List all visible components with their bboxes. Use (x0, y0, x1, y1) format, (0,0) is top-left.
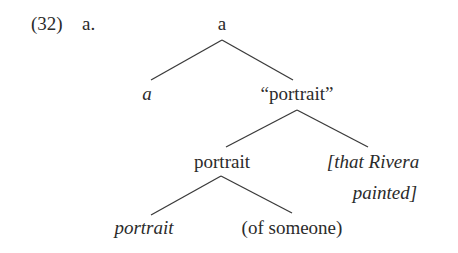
node-portrait: portrait (194, 151, 250, 173)
node-portrait-head: portrait (114, 217, 173, 239)
branch-n-right (221, 176, 292, 213)
node-of-someone: (of someone) (242, 217, 343, 239)
tree-branches (0, 0, 458, 253)
node-relative-clause-line1: [that Rivera (327, 151, 419, 173)
branch-root-right (222, 40, 293, 80)
node-relative-clause-line2: painted] (353, 182, 417, 204)
node-determiner: a (142, 83, 152, 105)
branch-root-left (151, 40, 222, 80)
node-root: a (218, 13, 226, 35)
branch-np-right (297, 110, 368, 147)
branch-n-left (151, 176, 221, 215)
node-portrait-quoted: “portrait” (261, 83, 334, 105)
branch-np-left (226, 110, 297, 147)
